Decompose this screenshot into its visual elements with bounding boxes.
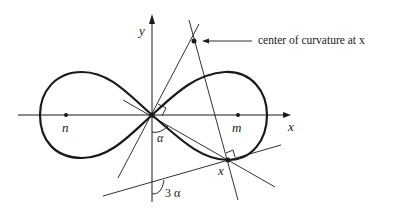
point-x-label: x	[217, 163, 224, 178]
focus-n-dot	[64, 113, 68, 117]
three-alpha-label: 3 α	[165, 186, 181, 200]
normal-line	[189, 20, 238, 200]
y-axis-label: y	[137, 23, 145, 38]
curvature-center-dot	[192, 39, 197, 44]
alpha-label: α	[157, 131, 164, 145]
polar-line	[123, 100, 275, 187]
focus-n-label: n	[62, 120, 69, 135]
construction-lines	[103, 20, 281, 200]
curvature-annotation: center of curvature at x	[258, 34, 365, 46]
origin-dot	[150, 113, 155, 118]
tangent-line	[103, 145, 281, 196]
x-axis-label: x	[287, 119, 294, 134]
three-alpha-arc	[152, 180, 164, 194]
right-angle-origin	[158, 104, 166, 116]
radius-line	[118, 24, 199, 178]
lemniscate-diagram: y x n m x α 3 α center of curvature at x	[0, 0, 397, 215]
x-axis-arrow-icon	[283, 112, 291, 118]
y-axis-arrow-icon	[149, 14, 155, 24]
point-x-dot	[226, 158, 231, 163]
focus-m-label: m	[232, 120, 241, 135]
focus-m-dot	[236, 113, 240, 117]
right-angle-x	[226, 150, 235, 157]
annotation-arrow-icon	[202, 39, 209, 44]
